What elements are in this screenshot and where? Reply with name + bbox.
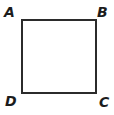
vertex-label-a: A xyxy=(4,5,15,19)
vertex-label-b: B xyxy=(97,5,108,19)
vertex-label-d: D xyxy=(5,94,17,108)
square-shape xyxy=(22,20,96,93)
vertex-label-c: C xyxy=(99,95,109,109)
geometry-figure-square-abcd: A B C D xyxy=(0,0,114,115)
